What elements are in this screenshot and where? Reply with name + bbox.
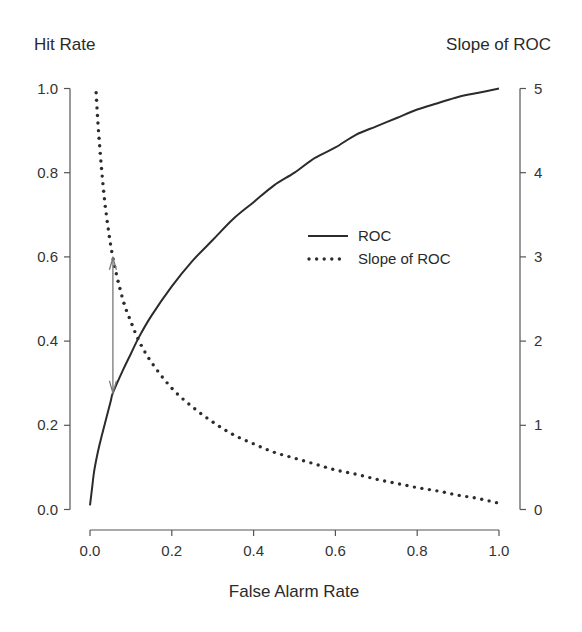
slope-dot bbox=[280, 453, 283, 456]
y-right-tick-label: 4 bbox=[534, 164, 542, 181]
slope-dot bbox=[108, 235, 111, 238]
slope-dot bbox=[273, 451, 276, 454]
slope-dot bbox=[331, 468, 334, 471]
slope-dot bbox=[99, 152, 102, 155]
slope-dot bbox=[100, 167, 103, 170]
slope-dot bbox=[176, 392, 179, 395]
y-left-tick-label: 1.0 bbox=[37, 80, 58, 97]
slope-dot bbox=[193, 407, 196, 410]
slope-dot bbox=[368, 476, 371, 479]
slope-dot bbox=[118, 287, 121, 290]
slope-dot bbox=[495, 501, 498, 504]
slope-dot bbox=[161, 375, 164, 378]
slope-dot bbox=[109, 242, 112, 245]
slope-dot bbox=[97, 129, 100, 132]
y-left-axis-title: Hit Rate bbox=[34, 35, 95, 54]
y-left-axis: 0.00.20.40.60.81.0 bbox=[37, 80, 70, 518]
slope-dot bbox=[218, 425, 221, 428]
x-tick-label: 0.4 bbox=[243, 542, 264, 559]
y-right-tick-label: 3 bbox=[534, 248, 542, 265]
y-right-axis-title: Slope of ROC bbox=[446, 35, 551, 54]
slope-dot bbox=[238, 436, 241, 439]
double-arrow-annotation bbox=[109, 258, 116, 393]
slope-dot bbox=[266, 448, 269, 451]
slope-dot bbox=[156, 369, 159, 372]
x-axis: 0.00.20.40.60.81.0 bbox=[80, 530, 510, 559]
slope-dot bbox=[100, 174, 103, 177]
legend-slope-dot bbox=[338, 257, 341, 260]
slope-dot bbox=[224, 429, 227, 432]
slope-dot bbox=[110, 250, 113, 253]
slope-dot bbox=[480, 498, 483, 501]
slope-dot bbox=[428, 488, 431, 491]
slope-dot bbox=[302, 459, 305, 462]
slope-dot bbox=[353, 472, 356, 475]
y-left-tick-label: 0.2 bbox=[37, 416, 58, 433]
slope-dot bbox=[125, 309, 128, 312]
y-right-tick-label: 5 bbox=[534, 80, 542, 97]
slope-dot bbox=[390, 481, 393, 484]
y-left-tick-label: 0.6 bbox=[37, 248, 58, 265]
y-left-tick-label: 0.0 bbox=[37, 501, 58, 518]
slope-dot bbox=[187, 402, 190, 405]
slope-dot bbox=[487, 499, 490, 502]
slope-dot bbox=[115, 272, 118, 275]
slope-dot bbox=[120, 294, 123, 297]
slope-dot bbox=[405, 484, 408, 487]
slope-dot bbox=[443, 491, 446, 494]
slope-dot bbox=[170, 387, 173, 390]
slope-dot bbox=[473, 496, 476, 499]
slope-dot bbox=[316, 463, 319, 466]
slope-dot bbox=[465, 495, 468, 498]
slope-dot bbox=[102, 190, 105, 193]
slope-dot bbox=[181, 397, 184, 400]
legend-slope-label: Slope of ROC bbox=[358, 250, 451, 267]
y-right-tick-label: 1 bbox=[534, 416, 542, 433]
legend-slope-dot bbox=[307, 257, 310, 260]
slope-dot bbox=[346, 471, 349, 474]
slope-dot bbox=[398, 482, 401, 485]
legend: ROC Slope of ROC bbox=[307, 227, 450, 267]
slope-dot bbox=[95, 106, 98, 109]
legend-roc-label: ROC bbox=[358, 227, 392, 244]
slope-dot bbox=[96, 114, 99, 117]
slope-dot bbox=[361, 474, 364, 477]
slope-dot bbox=[199, 412, 202, 415]
slope-dot bbox=[130, 323, 133, 326]
roc-chart: Hit Rate Slope of ROC False Alarm Rate 0… bbox=[0, 0, 582, 632]
legend-slope-swatch bbox=[307, 257, 341, 260]
slope-dot bbox=[128, 316, 131, 319]
slope-dot bbox=[99, 159, 102, 162]
slope-dot bbox=[338, 469, 341, 472]
slope-dot bbox=[143, 350, 146, 353]
y-right-tick-label: 2 bbox=[534, 332, 542, 349]
slope-of-roc-curve bbox=[94, 91, 498, 504]
slope-dot bbox=[151, 363, 154, 366]
slope-dot bbox=[107, 227, 110, 230]
slope-dot bbox=[106, 220, 109, 223]
slope-dot bbox=[96, 121, 99, 124]
slope-dot bbox=[420, 487, 423, 490]
slope-dot bbox=[413, 485, 416, 488]
slope-dot bbox=[252, 442, 255, 445]
slope-dot bbox=[245, 439, 248, 442]
slope-dot bbox=[205, 416, 208, 419]
y-right-axis: 012345 bbox=[520, 80, 542, 518]
y-left-tick-label: 0.8 bbox=[37, 164, 58, 181]
x-tick-label: 0.2 bbox=[161, 542, 182, 559]
y-left-tick-label: 0.4 bbox=[37, 332, 58, 349]
slope-dot bbox=[97, 137, 100, 140]
slope-dot bbox=[287, 455, 290, 458]
legend-slope-dot bbox=[323, 257, 326, 260]
slope-dot bbox=[122, 302, 125, 305]
slope-dot bbox=[231, 433, 234, 436]
x-tick-label: 0.8 bbox=[407, 542, 428, 559]
slope-dot bbox=[375, 478, 378, 481]
slope-dot bbox=[165, 381, 168, 384]
y-right-tick-label: 0 bbox=[534, 501, 542, 518]
slope-dot bbox=[133, 330, 136, 333]
x-axis-title: False Alarm Rate bbox=[229, 582, 359, 601]
slope-dot bbox=[136, 337, 139, 340]
slope-dot bbox=[458, 494, 461, 497]
slope-dot bbox=[98, 144, 101, 147]
